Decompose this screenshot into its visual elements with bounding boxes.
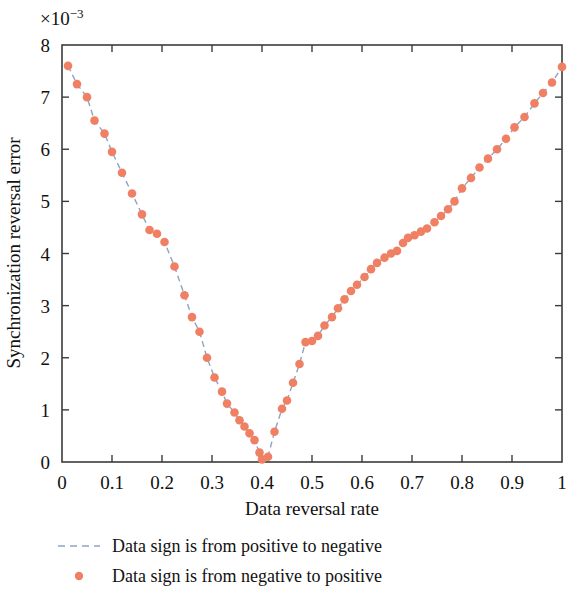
data-point [340,295,349,304]
legend-circle-swatch [75,572,83,580]
data-point [223,399,232,408]
data-point [170,262,179,271]
chart-canvas: ×10−3 00.10.20.30.40.50.60.70.80.91 0123… [0,0,569,595]
data-point [367,265,376,274]
data-point [450,197,459,206]
data-point [83,93,92,102]
data-point [73,80,82,89]
y-axis-exponent-label: ×10−3 [40,6,84,29]
data-point [108,148,117,157]
data-point [393,247,402,256]
x-tick-label: 0 [57,472,67,493]
x-tick-label: 0.9 [500,472,524,493]
data-point [145,226,154,235]
data-point [360,273,369,282]
data-point [218,387,227,396]
y-tick-marks [62,97,562,410]
data-point [320,321,329,330]
data-point [444,205,453,214]
data-point [510,123,519,132]
data-point [493,145,502,154]
x-tick-label: 0.2 [150,472,174,493]
data-point [90,116,99,125]
x-tick-label: 0.1 [100,472,124,493]
x-tick-label: 0.5 [300,472,324,493]
x-tick-label: 1 [557,472,567,493]
y-tick-label: 3 [41,296,51,317]
data-point [118,168,127,177]
data-point [530,99,539,108]
data-point [458,184,467,193]
data-point [334,304,343,313]
x-tick-labels: 00.10.20.30.40.50.60.70.80.91 [57,472,567,493]
figure-container: ×10−3 00.10.20.30.40.50.60.70.80.91 0123… [0,0,569,595]
legend-label-negative-to-positive: Data sign is from negative to positive [112,566,382,586]
x-tick-label: 0.3 [200,472,224,493]
data-point [289,378,298,387]
x-tick-label: 0.4 [250,472,274,493]
series-line-positive-to-negative [68,66,562,460]
data-point [188,313,197,322]
data-point [437,212,446,221]
data-point [250,436,259,445]
data-point [328,313,337,322]
data-point [347,287,356,296]
data-point [539,89,548,98]
legend-label-positive-to-negative: Data sign is from positive to negative [112,536,382,556]
y-tick-label: 2 [41,348,51,369]
plot-frame [62,45,562,462]
data-point [264,452,273,461]
data-point [558,63,567,72]
data-point [430,218,439,227]
data-point [467,174,476,183]
data-point [484,154,493,163]
y-tick-label: 4 [41,244,51,265]
data-point [160,238,169,247]
x-tick-marks [112,45,512,462]
data-point [314,332,323,341]
legend: Data sign is from positive to negative D… [58,536,382,586]
data-point [230,408,239,417]
series-markers-negative-to-positive [64,62,567,464]
x-tick-label: 0.7 [400,472,424,493]
data-point [210,373,219,382]
x-tick-label: 0.8 [450,472,474,493]
y-tick-labels: 012345678 [41,35,51,473]
data-point [295,360,304,369]
data-point [100,129,109,138]
data-point [520,113,529,122]
x-axis-title: Data reversal rate [245,498,379,519]
data-point [138,210,147,219]
y-tick-label: 1 [41,400,51,421]
data-point [64,62,73,71]
data-point [195,327,204,336]
y-tick-label: 6 [41,139,51,160]
x-tick-label: 0.6 [350,472,374,493]
data-point [373,259,382,268]
data-point [180,291,189,300]
data-point [353,280,362,289]
y-tick-label: 7 [41,87,51,108]
y-tick-label: 0 [41,452,51,473]
y-tick-label: 5 [41,191,51,212]
y-tick-label: 8 [41,35,51,56]
data-point [278,405,287,414]
data-point [283,396,292,405]
data-point [153,229,162,238]
data-point [502,135,511,144]
data-point [548,78,557,87]
data-point [270,427,279,436]
y-axis-title: Synchronization reversal error [3,137,24,369]
data-point [475,163,484,172]
data-point [203,353,212,362]
data-point [128,189,137,198]
data-point [423,224,432,233]
